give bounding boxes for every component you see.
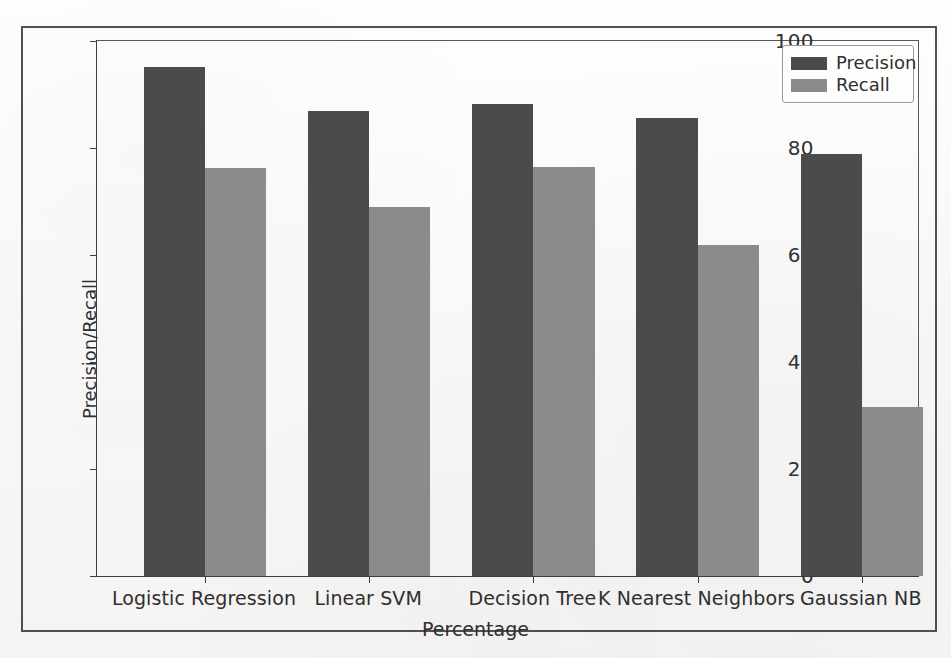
x-axis-tick-label: Gaussian NB xyxy=(800,587,922,609)
plot-area: 020406080100 Precision/Recall xyxy=(96,40,919,577)
bar-group xyxy=(144,41,266,576)
bar-precision-gaussian-nb xyxy=(801,154,862,576)
legend-item-precision: Precision xyxy=(791,52,905,74)
x-axis-tick xyxy=(369,576,370,583)
legend-swatch-recall xyxy=(791,79,827,92)
bar-group xyxy=(801,41,923,576)
bar-recall-logistic-regression xyxy=(205,168,266,576)
chart-screenshot: 020406080100 Precision/Recall Percentage… xyxy=(0,0,951,658)
legend-label-precision: Precision xyxy=(836,54,916,72)
y-axis-tick xyxy=(90,469,97,470)
y-axis-tick xyxy=(90,255,97,256)
bar-recall-gaussian-nb xyxy=(862,407,923,576)
bar-recall-k-nearest-neighbors xyxy=(698,245,759,576)
x-axis-tick xyxy=(698,576,699,583)
legend-label-recall: Recall xyxy=(836,76,890,94)
x-axis-label: Percentage xyxy=(0,618,951,640)
y-axis-label: Precision/Recall xyxy=(79,279,100,419)
x-axis-tick-label: Linear SVM xyxy=(314,587,422,609)
bar-group xyxy=(308,41,430,576)
bar-precision-k-nearest-neighbors xyxy=(636,118,697,576)
bar-precision-decision-tree xyxy=(472,104,533,576)
bar-precision-logistic-regression xyxy=(144,67,205,576)
x-axis-tick xyxy=(862,576,863,583)
x-axis-tick-label: Logistic Regression xyxy=(112,587,296,609)
x-axis-tick-label: Decision Tree xyxy=(468,587,596,609)
bar-recall-linear-svm xyxy=(369,207,430,576)
legend-swatch-precision xyxy=(791,57,827,70)
chart-legend: Precision Recall xyxy=(782,45,914,103)
y-axis-tick xyxy=(90,576,97,577)
bar-group xyxy=(472,41,594,576)
x-axis-tick-label: K Nearest Neighbors xyxy=(598,587,795,609)
bars-layer xyxy=(97,41,918,576)
x-axis-tick xyxy=(533,576,534,583)
bar-group xyxy=(636,41,758,576)
bar-precision-linear-svm xyxy=(308,111,369,576)
y-axis-tick xyxy=(90,41,97,42)
y-axis-tick xyxy=(90,148,97,149)
x-axis-tick xyxy=(205,576,206,583)
legend-item-recall: Recall xyxy=(791,74,905,96)
bar-recall-decision-tree xyxy=(533,167,594,576)
bar-chart-figure: 020406080100 Precision/Recall Percentage… xyxy=(0,0,951,658)
